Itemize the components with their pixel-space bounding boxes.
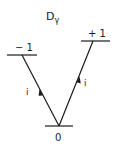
level-label-zero: 0 (55, 132, 61, 143)
diagram-title: Dγ (46, 10, 59, 25)
level-label-minus-one: − 1 (15, 42, 33, 53)
transition-label-right: i (84, 78, 87, 88)
energy-level-diagram: Dγ − 1 + 1 0 i i (0, 0, 116, 148)
title-subscript: γ (54, 16, 59, 25)
transition-line-zero-to-plus-one (59, 41, 93, 126)
title-main: D (46, 10, 54, 23)
transition-label-left: i (26, 87, 29, 97)
level-label-plus-one: + 1 (88, 28, 106, 39)
